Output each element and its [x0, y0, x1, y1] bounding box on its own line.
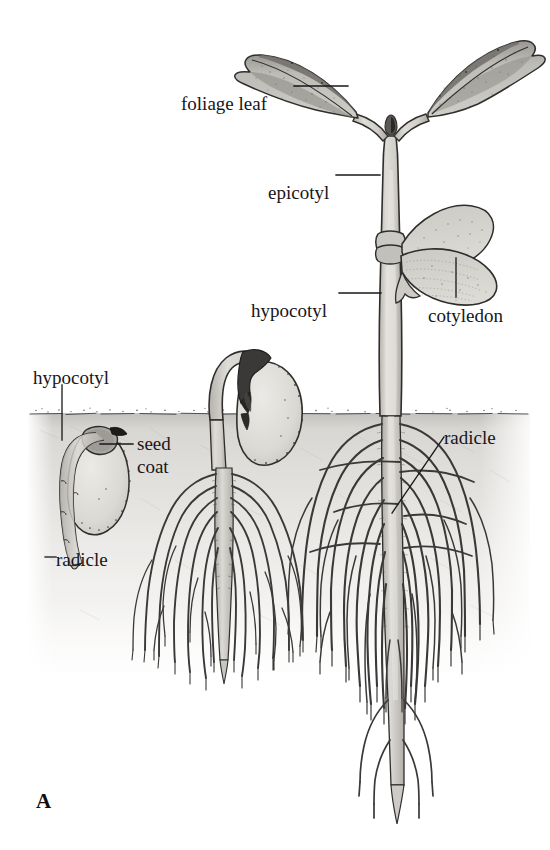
- germination-illustration: [0, 0, 550, 850]
- seedling-germination-figure: foliage leaf epicotyl hypocotyl cotyledo…: [0, 0, 550, 850]
- label-seed-coat: seed coat: [137, 432, 171, 478]
- label-cotyledon: cotyledon: [428, 305, 503, 326]
- panel-letter-a: A: [36, 789, 51, 814]
- label-epicotyl: epicotyl: [268, 182, 329, 203]
- label-hypocotyl-seed: hypocotyl: [33, 367, 109, 388]
- label-foliage-leaf: foliage leaf: [181, 93, 267, 114]
- label-hypocotyl-main: hypocotyl: [251, 300, 327, 321]
- label-radicle-left: radicle: [56, 549, 108, 570]
- label-radicle-right: radicle: [444, 427, 496, 448]
